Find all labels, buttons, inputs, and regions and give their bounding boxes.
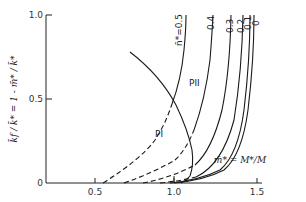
y-tick-label-0: 0 — [37, 178, 43, 188]
curve-label-0: 0 — [251, 20, 261, 26]
x-axis-title: m̄* = M*/M — [214, 155, 267, 165]
x-tick-label-0.5: 0.5 — [88, 187, 102, 197]
curve-n-0.5-dashed — [103, 104, 172, 183]
curve-label-0.3: 0.3 — [225, 19, 235, 33]
y-tick-label-0.5: 0.5 — [29, 94, 43, 104]
y-axis-title: k̄f / k̄* = 1 - m̄* / k̄* — [8, 55, 19, 142]
x-tick-label-1.0: 1.0 — [167, 187, 182, 197]
x-tick-label-1.5: 1.5 — [250, 187, 264, 197]
curve-label-0.5: n̄*=0.5 — [174, 14, 184, 46]
curve-n-0.2-solid — [196, 15, 243, 177]
region-label-pi: PI — [155, 129, 163, 139]
curve-n-0.3-solid — [195, 15, 231, 165]
region-label-pii: PII — [189, 78, 200, 88]
chart: 1.0 0.5 0 0.5 1.0 1.5 k̄f / k̄* = 1 - m̄… — [0, 0, 306, 202]
curve-boundary — [130, 52, 193, 183]
curve-label-0.4: 0.4 — [206, 15, 216, 30]
y-tick-label-1.0: 1.0 — [29, 10, 44, 20]
curve-n-0.4-solid — [194, 15, 213, 130]
